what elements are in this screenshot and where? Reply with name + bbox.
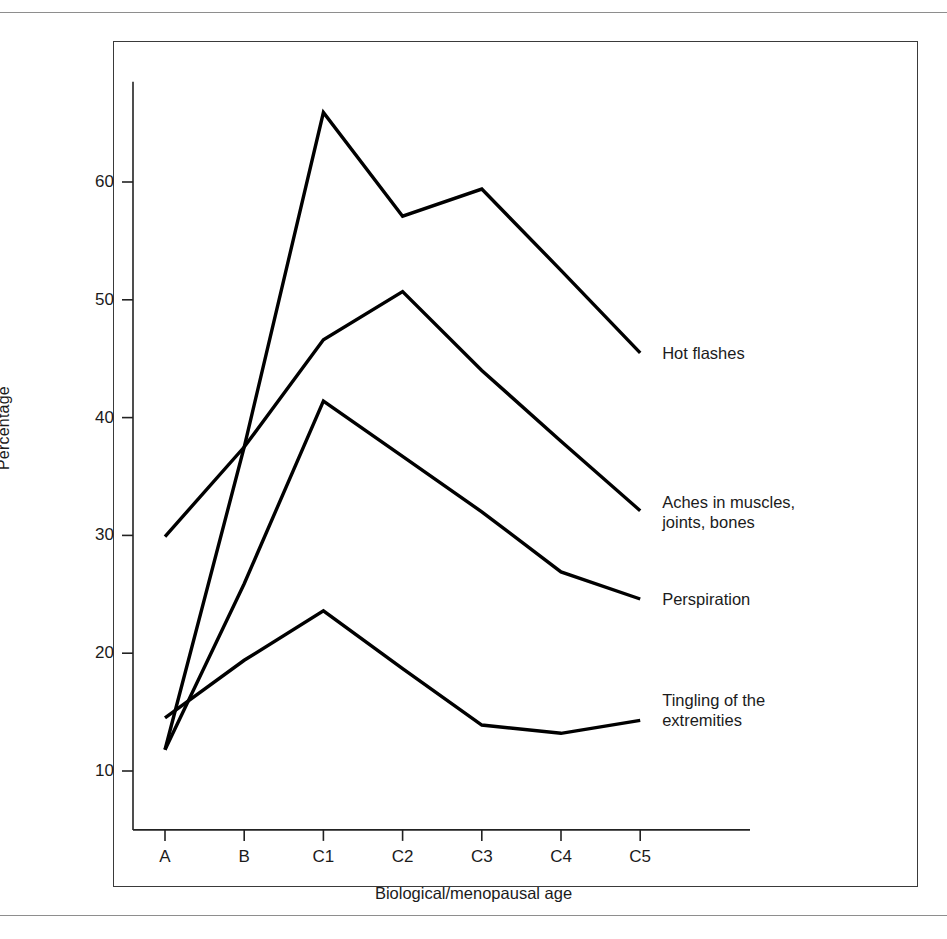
- y-axis-title: Percentage: [0, 386, 13, 470]
- series-label-3: Tingling of the extremities: [662, 690, 765, 730]
- x-tick-label: C2: [392, 847, 414, 867]
- y-tick-label: 50: [76, 290, 114, 310]
- series-line-0: [165, 112, 640, 749]
- series-line-3: [165, 611, 640, 734]
- series-line-2: [165, 401, 640, 750]
- series-label-1: Aches in muscles, joints, bones: [662, 492, 795, 532]
- x-tick-label: A: [159, 847, 170, 867]
- y-tick-label: 60: [76, 172, 114, 192]
- x-tick-label: C5: [629, 847, 651, 867]
- figure-page: Percentage Biological/menopausal age 102…: [0, 0, 947, 939]
- series-line-1: [165, 292, 640, 537]
- x-tick-label: C4: [550, 847, 572, 867]
- x-tick-label: C3: [471, 847, 493, 867]
- x-tick-label: B: [239, 847, 250, 867]
- x-axis-title: Biological/menopausal age: [0, 884, 947, 903]
- axes-group: [122, 82, 750, 841]
- x-tick-label: C1: [313, 847, 335, 867]
- series-group: [165, 112, 640, 749]
- y-tick-label: 30: [76, 525, 114, 545]
- line-chart-plot: [0, 0, 947, 939]
- y-tick-label: 20: [76, 643, 114, 663]
- series-label-2: Perspiration: [662, 589, 750, 609]
- y-tick-label: 40: [76, 408, 114, 428]
- series-label-0: Hot flashes: [662, 343, 745, 363]
- y-tick-label: 10: [76, 761, 114, 781]
